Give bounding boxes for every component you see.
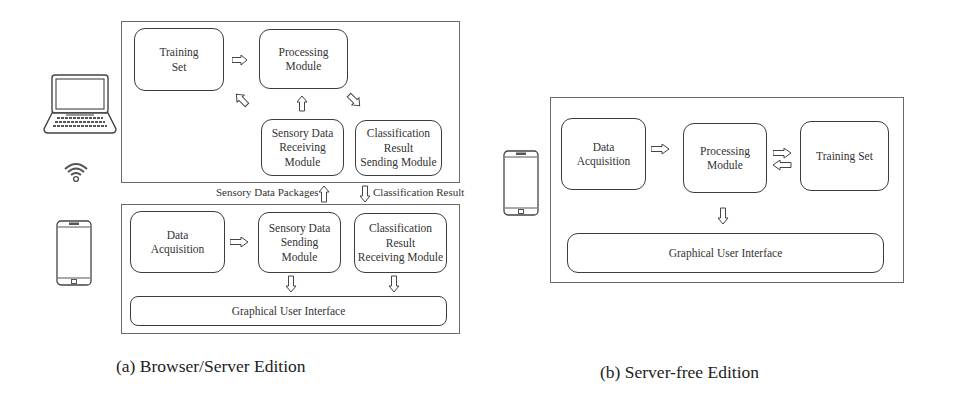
data-acquisition-box: Data Acquisition xyxy=(130,211,225,273)
data-acquisition-label-b: Data Acquisition xyxy=(577,140,631,169)
training-set-box-b: Training Set xyxy=(800,121,889,191)
sensory-data-sending-module-box: Sensory Data Sending Module xyxy=(258,212,341,273)
arrow-training-to-processing xyxy=(232,55,249,66)
sensory-data-receiving-module-label: Sensory Data Receiving Module xyxy=(272,126,334,170)
caption-a: (a) Browser/Server Edition xyxy=(116,356,306,377)
processing-module-box-b: Processing Module xyxy=(683,123,767,193)
arrow-sending-to-gui xyxy=(286,275,297,293)
processing-module-label-b: Processing Module xyxy=(700,144,750,173)
processing-module-box: Processing Module xyxy=(259,29,348,89)
smartphone-icon xyxy=(503,150,539,216)
sensory-data-sending-module-label: Sensory Data Sending Module xyxy=(269,221,331,265)
classification-result-sending-module-box: Classification Result Sending Module xyxy=(355,120,442,176)
data-acquisition-box-b: Data Acquisition xyxy=(561,118,646,190)
arrow-processing-to-training-b xyxy=(773,148,792,159)
classification-result-sending-module-label: Classification Result Sending Module xyxy=(360,126,436,170)
arrow-processing-to-gui-b xyxy=(718,207,729,225)
graphical-user-interface-label-a: Graphical User Interface xyxy=(232,304,346,319)
training-set-box: Training Set xyxy=(134,28,224,91)
classification-result-receiving-module-box: Classification Result Receiving Module xyxy=(354,213,447,273)
arrow-receiving-to-gui xyxy=(389,275,400,293)
sensory-data-packages-label: Sensory Data Packages xyxy=(216,186,319,198)
arrow-acquisition-to-processing-b xyxy=(651,144,670,155)
arrow-training-to-processing-b xyxy=(773,160,792,171)
sensory-data-receiving-module-box: Sensory Data Receiving Module xyxy=(261,119,344,176)
training-set-label: Training Set xyxy=(159,45,198,74)
processing-module-label: Processing Module xyxy=(279,45,329,74)
graphical-user-interface-label-b: Graphical User Interface xyxy=(669,246,783,261)
graphical-user-interface-box-a: Graphical User Interface xyxy=(130,296,447,326)
arrow-to-training-set xyxy=(232,92,252,112)
classification-result-label: Classification Result xyxy=(373,186,464,198)
smartphone-icon xyxy=(56,220,92,286)
arrow-down-classification-result xyxy=(360,185,371,203)
data-acquisition-label: Data Acquisition xyxy=(151,228,205,257)
caption-b: (b) Server-free Edition xyxy=(600,362,759,383)
wifi-icon xyxy=(63,160,89,184)
arrow-processing-to-sending xyxy=(344,92,364,112)
arrow-receiving-to-processing xyxy=(297,95,308,112)
laptop-icon xyxy=(43,74,117,136)
graphical-user-interface-box-b: Graphical User Interface xyxy=(567,233,884,273)
classification-result-receiving-module-label: Classification Result Receiving Module xyxy=(358,221,443,265)
arrow-up-sensory-data-packages xyxy=(319,185,330,203)
arrow-acquisition-to-sending xyxy=(230,237,249,248)
training-set-label-b: Training Set xyxy=(816,149,873,164)
